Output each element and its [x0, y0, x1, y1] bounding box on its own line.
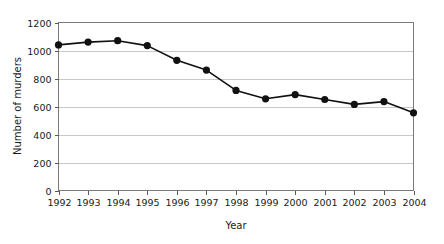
x-tick-label: 1993	[76, 197, 100, 208]
x-tick-label: 1998	[224, 197, 248, 208]
x-tick-label: 2002	[342, 197, 366, 208]
x-tick-label: 2003	[372, 197, 396, 208]
x-tick-label: 1995	[135, 197, 159, 208]
x-axis-title: Year	[224, 220, 247, 231]
y-tick-label: 400	[33, 130, 51, 141]
chart-canvas: 020040060080010001200 199219931994199519…	[0, 0, 444, 244]
x-tick-label: 2001	[313, 197, 337, 208]
line-chart-container: 020040060080010001200 199219931994199519…	[0, 0, 444, 244]
data-point-marker	[114, 37, 121, 44]
x-tick-label: 2000	[283, 197, 307, 208]
x-tick-label: 1996	[165, 197, 189, 208]
x-tick-label: 2004	[402, 197, 426, 208]
x-tick-label: 1997	[194, 197, 218, 208]
data-point-marker	[232, 87, 239, 94]
data-point-marker	[144, 42, 151, 49]
x-tick-label: 1999	[254, 197, 278, 208]
y-tick-label: 1000	[27, 46, 51, 57]
y-tick-label: 0	[45, 186, 51, 197]
data-point-marker	[55, 41, 62, 48]
data-point-marker	[173, 57, 180, 64]
x-tick-label: 1994	[106, 197, 130, 208]
y-tick-label: 800	[33, 74, 51, 85]
y-tick-label: 600	[33, 102, 51, 113]
data-point-marker	[292, 91, 299, 98]
data-point-marker	[321, 96, 328, 103]
y-tick-label: 1200	[27, 18, 51, 29]
data-point-marker	[84, 39, 91, 46]
y-axis-title: Number of murders	[12, 57, 23, 155]
data-point-marker	[203, 67, 210, 74]
y-tick-label: 200	[33, 158, 51, 169]
data-point-marker	[262, 95, 269, 102]
data-point-marker	[410, 109, 417, 116]
data-point-marker	[351, 101, 358, 108]
data-point-marker	[380, 98, 387, 105]
x-tick-label: 1992	[47, 197, 71, 208]
